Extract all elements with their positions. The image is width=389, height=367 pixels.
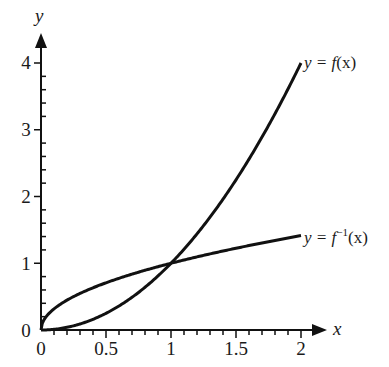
x-tick-label-0.5: 0.5	[94, 338, 118, 359]
y-axis-arrow-icon	[35, 33, 47, 48]
x-tick-label-0: 0	[36, 338, 46, 359]
y-tick-label-3: 3	[21, 119, 31, 140]
curve-f-label: y = f(x)	[302, 53, 356, 72]
y-tick-label-4: 4	[21, 52, 31, 73]
curve-f	[41, 63, 301, 330]
x-tick-label-2: 2	[296, 338, 306, 359]
function-inverse-chart: 0 0.5 1 1.5 2 0 1 2 3 4 x y y = f(x) y =…	[0, 0, 389, 367]
x-axis-arrow-icon	[312, 324, 327, 336]
x-tick-label-1: 1	[166, 338, 176, 359]
y-tick-label-0: 0	[21, 320, 31, 341]
curve-f-inverse	[41, 236, 301, 330]
x-tick-label-1.5: 1.5	[224, 338, 248, 359]
curve-f-inverse-label: y = f−1(x)	[302, 226, 368, 247]
x-ticks	[54, 330, 301, 338]
y-tick-label-1: 1	[21, 253, 31, 274]
x-axis-label: x	[332, 318, 342, 339]
y-axis-label: y	[33, 5, 44, 26]
y-tick-label-2: 2	[21, 186, 31, 207]
